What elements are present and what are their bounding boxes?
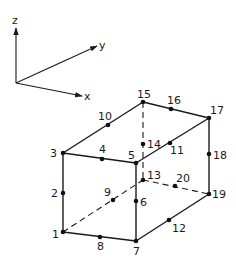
node-3-label: 3 <box>50 147 57 160</box>
hidden-edge-1-13 <box>63 180 143 232</box>
node-10-dot <box>106 123 111 128</box>
node-14-label: 14 <box>147 138 161 151</box>
node-16-dot <box>169 107 174 112</box>
node-4-dot <box>100 157 105 162</box>
node-18-label: 18 <box>213 149 227 162</box>
node-18-dot <box>207 152 212 157</box>
node-1-label: 1 <box>52 228 59 241</box>
node-6-dot <box>134 199 139 204</box>
node-5-label: 5 <box>128 149 135 162</box>
node-14-dot <box>141 142 146 147</box>
node-19-label: 19 <box>212 188 226 201</box>
node-16-label: 16 <box>167 94 181 107</box>
node-4-label: 4 <box>99 143 106 156</box>
x-axis-arrow <box>16 83 82 96</box>
y-axis-label: y <box>99 39 106 52</box>
node-labels: 1234567891011121314151617181920 <box>50 88 227 258</box>
coordinate-axes: z y x <box>12 14 106 103</box>
node-13-dot <box>141 178 146 183</box>
node-2-dot <box>61 191 66 196</box>
element-diagram: z y x 1234567891011121314151617181920 <box>0 0 236 266</box>
node-12-label: 12 <box>172 222 186 235</box>
node-11-label: 11 <box>170 144 184 157</box>
node-6-label: 6 <box>140 196 147 209</box>
node-17-label: 17 <box>210 104 224 117</box>
node-15-label: 15 <box>137 88 151 101</box>
node-7-label: 7 <box>133 245 140 258</box>
node-2-label: 2 <box>51 187 58 200</box>
y-axis-arrow <box>16 46 97 83</box>
node-7-dot <box>134 239 139 244</box>
node-9-dot <box>111 198 116 203</box>
node-1-dot <box>61 230 66 235</box>
node-13-label: 13 <box>147 169 161 182</box>
node-3-dot <box>61 151 66 156</box>
z-axis-label: z <box>12 14 18 27</box>
node-8-dot <box>98 235 103 240</box>
node-9-label: 9 <box>104 186 111 199</box>
node-10-label: 10 <box>98 110 112 123</box>
node-19-dot <box>207 192 212 197</box>
x-axis-label: x <box>84 90 91 103</box>
node-20-label: 20 <box>176 172 190 185</box>
node-8-label: 8 <box>97 240 104 253</box>
node-12-dot <box>167 218 172 223</box>
